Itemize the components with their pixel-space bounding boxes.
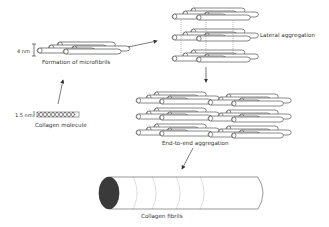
end-to-end-stage: End-to-end aggregation: [136, 92, 291, 147]
microfibril-bundle: [37, 42, 130, 54]
lateral-aggregation-stage: Lateral aggregation: [172, 8, 316, 62]
microfibril-label: Formation of microfibrils: [42, 59, 110, 65]
molecule-stage: 1.5 nm Collagen molecule: [15, 111, 87, 129]
lateral-aggregation-label: Lateral aggregation: [260, 32, 316, 39]
arrow-end-to-end-to-fibril: [182, 148, 193, 169]
arrow-molecule-to-microfibril: [58, 80, 63, 104]
triple-helix: [37, 112, 79, 117]
dimension-label-4nm: 4 nm: [17, 48, 30, 54]
end-to-end-label: End-to-end aggregation: [162, 140, 229, 147]
microfibril-stage: 4 nm Formation of microfibrils: [17, 42, 130, 65]
fibril-cross-section: [99, 177, 119, 209]
arrow-microfibril-to-lateral: [128, 41, 157, 47]
collagen-assembly-diagram: 4 nm Formation of microfibrils 1.5 nm Co…: [0, 0, 329, 227]
molecule-label: Collagen molecule: [35, 122, 87, 129]
dimension-label-1.5nm: 1.5 nm: [15, 112, 33, 118]
fibril-stage: Collagen fibrils: [99, 177, 263, 220]
fibril-label: Collagen fibrils: [141, 213, 183, 220]
